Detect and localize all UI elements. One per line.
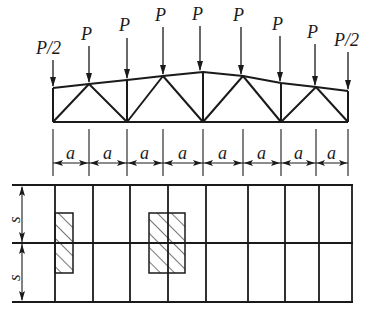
diagonal-member (163, 76, 203, 122)
load-arrow: P (271, 14, 283, 82)
load-arrow: P (154, 5, 166, 75)
panel-label: a (218, 143, 227, 163)
load-label: P (306, 22, 318, 42)
diagonal-member (316, 87, 348, 122)
panel-label: a (257, 143, 266, 163)
top-chord (53, 72, 348, 91)
truss (53, 72, 348, 122)
diagonal-member (281, 87, 316, 122)
plan-view: s s (5, 185, 353, 302)
load-arrow: P/2 (35, 38, 61, 87)
load-arrow: P (306, 22, 318, 86)
load-arrow: P (191, 4, 203, 71)
load-label: P/2 (333, 30, 359, 50)
diagonal-member (127, 76, 163, 122)
dimension-line: a a a a a a a a (53, 129, 348, 176)
load-label: P (154, 5, 166, 25)
panel-label: a (178, 143, 187, 163)
load-label: P (232, 5, 244, 25)
load-arrow: P (232, 5, 244, 75)
panel-label: a (140, 143, 149, 163)
diagonal-member (203, 76, 243, 122)
load-arrow: P (118, 15, 130, 79)
panel-label: a (294, 143, 303, 163)
load-label: P (80, 24, 92, 44)
load-group: P/2 P P P P P P (35, 4, 359, 90)
load-label: P (118, 15, 130, 35)
diagonal-member (53, 84, 89, 122)
spacing-label: s (5, 274, 24, 281)
load-label: P (191, 4, 203, 24)
load-label: P (271, 14, 283, 34)
truss-diagram: P/2 P P P P P P (0, 0, 371, 316)
spacing-label: s (5, 216, 24, 223)
load-arrow: P/2 (333, 30, 359, 90)
panel-label: a (103, 143, 112, 163)
diagonal-member (89, 84, 127, 122)
panel-label: a (327, 143, 336, 163)
load-label: P/2 (35, 38, 61, 58)
load-arrow: P (80, 24, 92, 83)
panel-label: a (66, 143, 75, 163)
